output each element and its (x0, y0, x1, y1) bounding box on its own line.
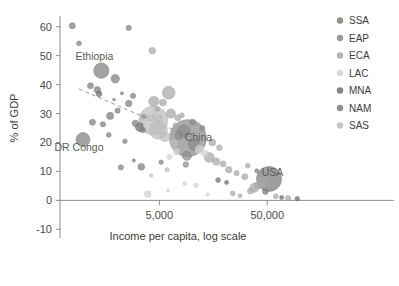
y-tick-label: 20 (40, 136, 52, 148)
legend-label-ssa[interactable]: SSA (349, 15, 369, 26)
data-point (295, 196, 299, 200)
annotation-usa: USA (262, 166, 284, 178)
x-tick-label: 50,000 (250, 209, 284, 221)
data-point (182, 151, 191, 160)
data-point (194, 183, 198, 187)
data-point (213, 158, 220, 165)
data-point (173, 149, 179, 155)
data-point (162, 86, 175, 99)
scatter-chart: -100102030405060 5,00050,000 EthiopiaDR … (0, 0, 399, 286)
legend-label-nam[interactable]: NAM (349, 103, 371, 114)
y-axis-ticks: -100102030405060 (36, 21, 60, 236)
data-point (183, 182, 187, 186)
legend-marker-eap[interactable] (337, 35, 343, 41)
legend-marker-nam[interactable] (337, 105, 343, 111)
data-point (126, 100, 132, 106)
legend-marker-sas[interactable] (337, 122, 343, 128)
legend-marker-eca[interactable] (337, 52, 343, 58)
data-point (285, 195, 290, 200)
legend-marker-lac[interactable] (337, 70, 343, 76)
data-point (94, 63, 109, 78)
annotation-dr-congo: DR Congo (54, 141, 103, 153)
data-point (248, 188, 254, 194)
data-point (170, 140, 178, 148)
data-point (280, 195, 284, 199)
data-point (225, 180, 229, 184)
data-point (160, 132, 170, 142)
x-axis-title: Income per capita, log scale (110, 230, 247, 242)
y-tick-label: -10 (36, 223, 52, 235)
data-point (111, 75, 119, 83)
y-tick-label: 0 (46, 194, 52, 206)
data-point (115, 108, 120, 113)
data-point (201, 150, 208, 157)
data-point (144, 191, 151, 198)
data-point (234, 171, 239, 176)
data-point (166, 109, 175, 118)
data-point (159, 160, 163, 164)
legend: SSAEAPECALACMNANAMSAS (337, 15, 372, 131)
data-point (242, 174, 248, 180)
data-point (230, 191, 235, 196)
data-point (220, 161, 226, 167)
y-axis-title: % of GDP (8, 94, 20, 143)
x-axis-ticks: 5,00050,000 (146, 200, 284, 221)
data-point (132, 120, 138, 126)
data-point (149, 96, 159, 106)
data-point (216, 178, 221, 183)
legend-label-mna[interactable]: MNA (349, 85, 372, 96)
y-tick-label: 30 (40, 108, 52, 120)
data-point (123, 139, 127, 143)
data-point (254, 182, 261, 189)
data-point (130, 93, 135, 98)
data-point (100, 122, 105, 127)
data-point (132, 159, 135, 162)
data-point (120, 92, 123, 95)
data-point (138, 163, 145, 170)
data-point (166, 189, 169, 192)
y-tick-label: 10 (40, 165, 52, 177)
y-tick-label: 50 (40, 50, 52, 62)
data-point (273, 194, 278, 199)
y-tick-label: 40 (40, 79, 52, 91)
data-point (107, 112, 114, 119)
legend-label-eap[interactable]: EAP (349, 33, 369, 44)
data-point (200, 125, 205, 130)
data-point (113, 98, 116, 101)
legend-label-sas[interactable]: SAS (349, 120, 369, 131)
data-point (245, 163, 250, 168)
data-point (255, 169, 259, 173)
data-point (126, 25, 131, 30)
data-point (69, 23, 75, 29)
x-tick-label: 5,000 (146, 209, 174, 221)
data-point (149, 47, 156, 54)
y-tick-label: 60 (40, 21, 52, 33)
data-point (190, 119, 196, 125)
data-point (87, 83, 93, 89)
legend-marker-ssa[interactable] (337, 17, 343, 23)
data-point (149, 174, 153, 178)
plot-area: -100102030405060 5,00050,000 EthiopiaDR … (0, 0, 399, 286)
data-point (183, 162, 189, 168)
data-point (143, 123, 148, 128)
data-point (160, 99, 167, 106)
data-point (238, 194, 242, 198)
legend-label-lac[interactable]: LAC (349, 68, 368, 79)
data-point (226, 166, 232, 172)
data-point (217, 145, 223, 151)
data-point (175, 132, 183, 140)
annotation-china: China (185, 131, 213, 143)
data-point (89, 119, 95, 125)
data-point (167, 154, 172, 159)
data-point (263, 189, 269, 195)
data-point (206, 193, 210, 197)
data-point (180, 113, 185, 118)
data-point (173, 123, 177, 127)
legend-marker-mna[interactable] (337, 87, 343, 93)
legend-label-eca[interactable]: ECA (349, 50, 370, 61)
annotation-india: India (140, 111, 163, 123)
data-point (77, 41, 82, 46)
data-point (96, 91, 102, 97)
data-point (118, 165, 123, 170)
data-point (165, 167, 169, 171)
